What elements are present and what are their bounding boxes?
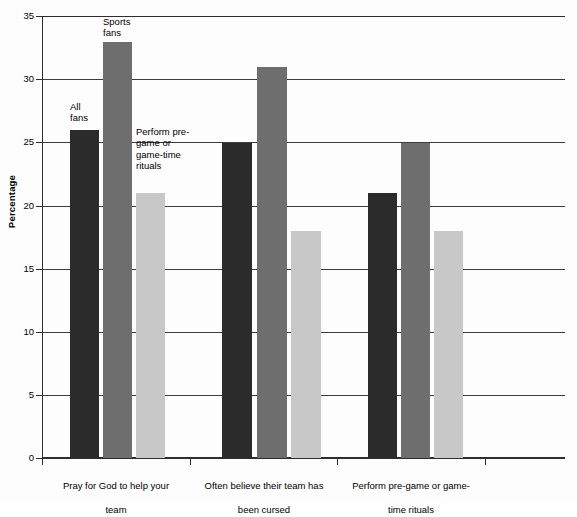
y-tick-label-15: 15 <box>8 264 34 274</box>
y-tick-label-30: 30 <box>8 74 34 84</box>
x-tick-mark-3 <box>485 459 486 465</box>
x-category-label-3-line-1: Perform pre-game or game- <box>333 480 489 492</box>
bar-group-1-all-fans <box>70 130 99 458</box>
y-tick-label-20: 20 <box>8 201 34 211</box>
plot-area: All fans Sports fans Perform pre- game o… <box>42 16 565 458</box>
y-tick-label-0: 0 <box>8 453 34 463</box>
bar-group-3-sports-fans <box>401 143 430 458</box>
bar-group-1-sports-fans <box>103 42 132 458</box>
x-category-label-3-line-2: time rituals <box>333 504 489 516</box>
y-tick-label-25: 25 <box>8 137 34 147</box>
bar-group-2-sports-fans <box>257 67 287 458</box>
x-tick-mark-0 <box>42 459 43 465</box>
x-category-label-2-line-2: been cursed <box>185 504 343 516</box>
x-category-label-1: Pray for God to help your team <box>42 468 190 517</box>
x-tick-mark-2 <box>337 459 338 465</box>
y-tick-label-5: 5 <box>8 390 34 400</box>
annotation-all-fans: All fans <box>70 101 88 124</box>
x-tick-mark-1 <box>190 459 191 465</box>
bar-group-2-rituals <box>291 231 321 458</box>
bar-group-3-rituals <box>434 231 463 458</box>
annotation-rituals: Perform pre- game or game-time rituals <box>136 126 202 172</box>
x-category-label-2-line-1: Often believe their team has <box>185 480 343 492</box>
x-category-label-1-line-2: team <box>42 504 190 516</box>
bar-group-3-all-fans <box>368 193 397 458</box>
x-category-label-2: Often believe their team has been cursed <box>185 468 343 517</box>
y-tick-label-10: 10 <box>8 327 34 337</box>
bar-group-2-all-fans <box>222 143 252 458</box>
annotation-sports-fans: Sports fans <box>103 16 130 39</box>
bar-group-1-rituals <box>136 193 165 458</box>
y-tick-label-35: 35 <box>8 11 34 21</box>
x-category-label-1-line-1: Pray for God to help your <box>42 480 190 492</box>
x-category-label-3: Perform pre-game or game- time rituals <box>333 468 489 517</box>
